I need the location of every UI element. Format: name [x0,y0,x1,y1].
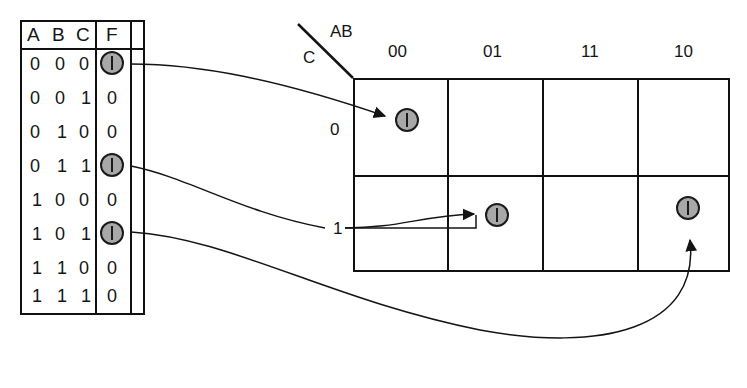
kmap-hline-1 [353,175,730,177]
cell-c-5: 1 [81,224,91,245]
cell-c-1: 1 [81,88,91,109]
table-row: 0 [30,156,40,177]
cell-c-2: 0 [79,122,89,143]
cell-f-4: 0 [107,190,117,211]
table-row: 1 [32,190,42,211]
kmap-col-header-00: 00 [388,42,407,62]
cell-f-6: 0 [107,258,117,279]
f-marker-row-3 [100,153,124,177]
kmap-col-header-01: 01 [483,42,502,62]
cell-b-1: 0 [55,88,65,109]
cell-b-3: 1 [57,156,67,177]
cell-c-6: 0 [79,258,89,279]
cell-c-4: 0 [79,190,89,211]
truth-table-f-divider [95,20,97,315]
kmap-row-header-1: 1 [333,219,342,239]
kmap-col-header-11: 11 [581,42,599,62]
table-row: 0 [30,88,40,109]
cell-f-2: 0 [107,122,117,143]
cell-b-0: 0 [55,54,65,75]
truth-table-header-rule [20,48,145,50]
cell-c-0: 0 [79,54,89,75]
cell-b-7: 1 [57,286,67,307]
truth-table-header-b: B [52,24,65,46]
cell-f-7: 0 [107,286,117,307]
table-row: 0 [30,54,40,75]
kmap-marker-ab00-c0 [395,108,419,132]
kmap-corner-ab-label: AB [330,22,353,42]
cell-c-7: 1 [81,286,91,307]
cell-f-1: 0 [107,88,117,109]
table-row: 1 [32,258,42,279]
cell-c-3: 1 [81,156,91,177]
table-row: 0 [30,122,40,143]
table-row: 1 [32,224,42,245]
cell-b-6: 1 [57,258,67,279]
truth-table-header-c: C [76,24,90,46]
kmap-row-header-0: 0 [330,120,339,140]
kmap-col-header-10: 10 [674,42,693,62]
kmap-figure: A B C F 0 0 0 0 0 1 0 0 1 0 0 0 1 1 1 0 … [0,0,747,388]
cell-b-2: 1 [57,122,67,143]
table-row: 1 [32,286,42,307]
cell-b-4: 0 [55,190,65,211]
kmap-marker-ab10-c1 [676,196,700,220]
truth-table-f-right-divider [130,20,132,315]
kmap-marker-ab01-c1 [485,203,509,227]
f-marker-row-5 [100,221,124,245]
truth-table-header-f: F [106,24,118,46]
truth-table-header-a: A [27,24,40,46]
kmap-corner-c-label: C [303,48,315,68]
arrow-row-011-to-row-label-1 [131,166,325,228]
f-marker-row-0 [100,51,124,75]
cell-b-5: 0 [55,224,65,245]
